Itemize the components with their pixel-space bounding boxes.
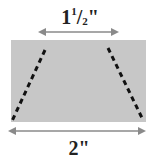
bottom-width-label: 2" (64, 137, 94, 160)
top-width-label: 11/2" (60, 5, 100, 29)
trapezoid-diagram: 11/2" 2" (0, 0, 154, 164)
gray-rectangle (11, 40, 146, 122)
